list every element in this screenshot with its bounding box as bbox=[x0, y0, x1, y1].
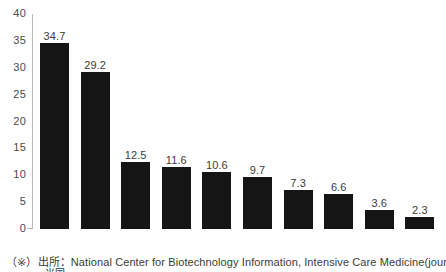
bar-value-label: 11.6 bbox=[154, 154, 199, 166]
y-axis-tick-value: 20 bbox=[13, 115, 26, 127]
bar-item: 34.7米国 bbox=[40, 43, 69, 230]
bar-value-label: 2.3 bbox=[397, 204, 442, 216]
bar-rect bbox=[162, 167, 191, 229]
y-axis-tick: 30 bbox=[0, 62, 26, 73]
y-axis-tick-value: 35 bbox=[13, 34, 26, 46]
y-axis-tick: 15 bbox=[0, 142, 26, 153]
bar-rect bbox=[405, 217, 434, 229]
y-axis-tick: 40 bbox=[0, 8, 26, 19]
bar-item: 2.3インド bbox=[405, 217, 434, 229]
bar-item: 3.6中国 bbox=[365, 210, 394, 229]
y-axis-tick: 0 bbox=[0, 223, 26, 234]
bar-rect bbox=[40, 43, 69, 230]
bar-rect bbox=[324, 194, 353, 229]
bar-value-label: 9.7 bbox=[235, 164, 280, 176]
bar-item: 10.6韓国 bbox=[202, 172, 231, 229]
plot-area: 4035302520151050 34.7米国29.2ドイツ12.5イタリア11… bbox=[32, 8, 442, 232]
bar-rect bbox=[243, 177, 272, 229]
bar-rect bbox=[284, 190, 313, 229]
bar-item: 6.6英国 bbox=[324, 194, 353, 229]
y-axis-tick: 5 bbox=[0, 196, 26, 207]
bar-item: 29.2ドイツ bbox=[81, 72, 110, 229]
y-axis-tick-value: 30 bbox=[13, 61, 26, 73]
bar-value-label: 3.6 bbox=[357, 197, 402, 209]
y-axis-tick-value: 10 bbox=[13, 168, 26, 180]
y-axis-tickmark bbox=[27, 228, 32, 229]
bar-value-label: 12.5 bbox=[113, 149, 158, 161]
y-axis-tick-value: 5 bbox=[20, 195, 26, 207]
bar-rect bbox=[202, 172, 231, 229]
bar-item: 9.7スペイン bbox=[243, 177, 272, 229]
bar-item: 11.6フランス bbox=[162, 167, 191, 229]
bar-value-label: 34.7 bbox=[32, 30, 77, 42]
y-axis-tick: 20 bbox=[0, 116, 26, 127]
y-axis-tick-value: 25 bbox=[13, 88, 26, 100]
bar-value-label: 10.6 bbox=[194, 159, 239, 171]
y-axis-tick-value: 40 bbox=[13, 7, 26, 19]
bar-rect bbox=[81, 72, 110, 229]
y-axis-tick: 10 bbox=[0, 169, 26, 180]
bar-chart: 4035302520151050 34.7米国29.2ドイツ12.5イタリア11… bbox=[0, 0, 446, 272]
bar-value-label: 6.6 bbox=[316, 181, 361, 193]
bar-item: 7.3日本 bbox=[284, 190, 313, 229]
bar-value-label: 7.3 bbox=[276, 177, 321, 189]
bar-series: 34.7米国29.2ドイツ12.5イタリア11.6フランス10.6韓国9.7スペ… bbox=[33, 8, 442, 232]
y-axis-tick-value: 0 bbox=[20, 222, 26, 234]
bar-rect bbox=[365, 210, 394, 229]
y-axis-tick: 35 bbox=[0, 35, 26, 46]
bar-item: 12.5イタリア bbox=[121, 162, 150, 229]
y-axis-tick-value: 15 bbox=[13, 141, 26, 153]
y-axis-tick: 25 bbox=[0, 89, 26, 100]
bar-rect bbox=[121, 162, 150, 229]
source-footnote: （※）出所：National Center for Biotechnology … bbox=[6, 256, 446, 269]
bar-value-label: 29.2 bbox=[73, 59, 118, 71]
